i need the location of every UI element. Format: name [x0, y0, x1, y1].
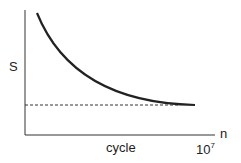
sn-diagram — [0, 0, 241, 163]
x-axis-label: cycle — [106, 141, 136, 154]
tick-exponent: 7 — [210, 141, 214, 150]
tick-base: 10 — [196, 142, 210, 157]
x-tick-label: 107 — [196, 143, 215, 156]
sn-curve — [37, 13, 195, 105]
x-axis-end-label: n — [220, 127, 227, 140]
y-axis-label: S — [9, 60, 18, 73]
